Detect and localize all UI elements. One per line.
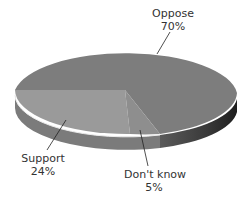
- dont-know-label-value: 5%: [124, 181, 184, 194]
- oppose-label-value: 70%: [148, 20, 198, 33]
- oppose-leader: [157, 32, 170, 54]
- oppose-label: Oppose 70%: [148, 7, 198, 33]
- support-label: Support 24%: [18, 152, 68, 178]
- support-label-name: Support: [18, 152, 68, 165]
- dont-know-label: Don't know 5%: [124, 168, 184, 194]
- support-label-value: 24%: [18, 165, 68, 178]
- pie-chart: Oppose 70% Support 24% Don't know 5%: [0, 0, 251, 199]
- oppose-label-name: Oppose: [148, 7, 198, 20]
- dont-know-label-name: Don't know: [124, 168, 184, 181]
